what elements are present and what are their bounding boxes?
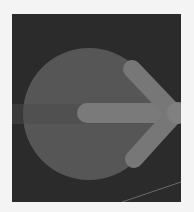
forward-button[interactable] (12, 14, 181, 202)
arrow-right-icon (12, 14, 181, 202)
